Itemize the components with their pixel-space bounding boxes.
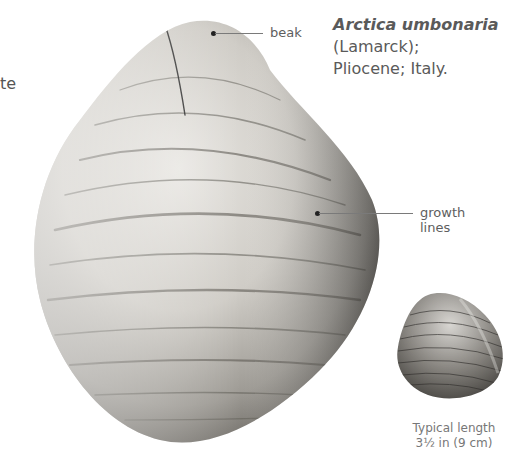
growth-lines-label: growth lines [420,205,465,235]
small-shell-illustration [390,285,512,410]
beak-label: beak [270,25,302,40]
growth-lines-label-line1: growth [420,205,465,220]
growth-lines-label-line2: lines [420,220,465,235]
typical-length-caption: Typical length 3½ in (9 cm) [396,421,512,451]
beak-leader-line [215,33,263,34]
growth-lines-leader-line [319,213,413,214]
species-name: Arctica umbonaria [333,14,499,36]
caption-line1: Typical length [396,421,512,436]
species-title-block: Arctica umbonaria (Lamarck); Pliocene; I… [333,14,499,80]
species-authority: (Lamarck); [333,36,499,58]
caption-line2: 3½ in (9 cm) [396,436,512,451]
species-age-location: Pliocene; Italy. [333,58,499,80]
